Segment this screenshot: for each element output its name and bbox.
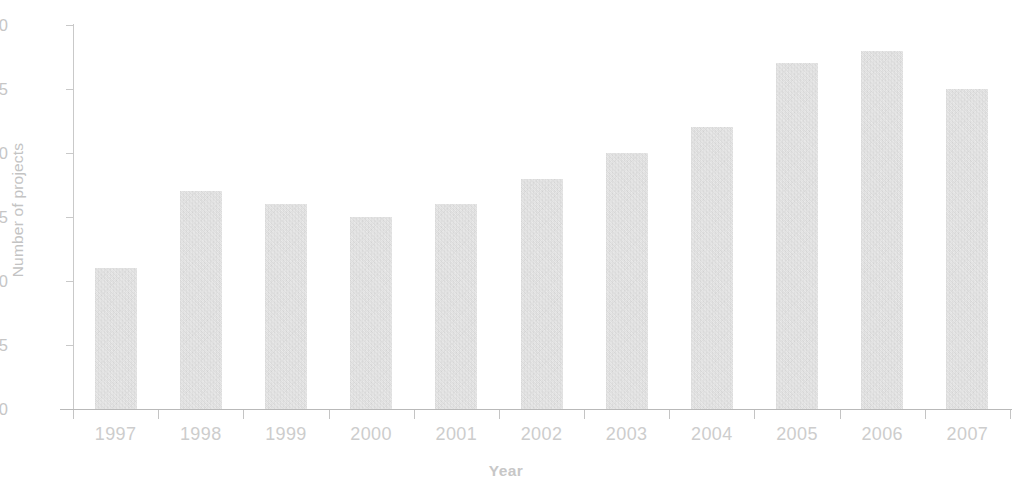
x-axis-tick-mark	[243, 410, 244, 419]
x-axis-tick-mark	[840, 410, 841, 419]
bar	[435, 204, 477, 409]
x-axis-tick-mark	[73, 410, 74, 419]
x-axis-tick-label: 2005	[752, 424, 842, 445]
x-axis-tick-mark	[414, 410, 415, 419]
x-axis-title: Year	[0, 462, 1012, 480]
bar	[521, 179, 563, 409]
plot-area	[73, 20, 1011, 409]
x-axis-tick-mark	[329, 410, 330, 419]
x-axis-tick-mark	[925, 410, 926, 419]
y-axis-title-label: Number of projects	[9, 143, 27, 278]
y-axis-tick-label: 25	[0, 78, 8, 100]
bar	[776, 63, 818, 409]
x-axis-tick-label: 2003	[582, 424, 672, 445]
x-axis-tick-label: 2001	[411, 424, 501, 445]
x-axis-tick-mark	[754, 410, 755, 419]
bar	[265, 204, 307, 409]
x-axis-tick-mark	[158, 410, 159, 419]
bar	[95, 268, 137, 409]
x-axis-tick-mark	[499, 410, 500, 419]
y-axis-tick-label: 30	[0, 14, 8, 36]
bar	[946, 89, 988, 409]
x-axis-tick-label: 1999	[241, 424, 331, 445]
x-axis-tick-mark	[1010, 410, 1011, 419]
bar-chart-figure: Number of projects 051015202530 19971998…	[0, 0, 1012, 488]
y-axis-tick-label: 5	[0, 334, 8, 356]
x-axis-tick-label: 2000	[326, 424, 416, 445]
x-axis-tick-mark	[669, 410, 670, 419]
y-axis-tick-label: 10	[0, 270, 8, 292]
x-axis-tick-label: 1998	[156, 424, 246, 445]
x-axis-tick-label: 1997	[71, 424, 161, 445]
bar	[606, 153, 648, 409]
y-axis-tick-label: 20	[0, 142, 8, 164]
x-axis-tick-label: 2007	[922, 424, 1012, 445]
x-axis-tick-label: 2002	[497, 424, 587, 445]
x-axis-line	[60, 409, 1012, 410]
x-axis-tick-label: 2006	[837, 424, 927, 445]
y-axis-tick-label: 0	[0, 398, 8, 420]
bar	[180, 191, 222, 409]
x-axis-tick-mark	[584, 410, 585, 419]
bar	[861, 51, 903, 409]
x-axis-tick-label: 2004	[667, 424, 757, 445]
bar	[350, 217, 392, 409]
y-axis-tick-label: 15	[0, 206, 8, 228]
bar	[691, 127, 733, 409]
